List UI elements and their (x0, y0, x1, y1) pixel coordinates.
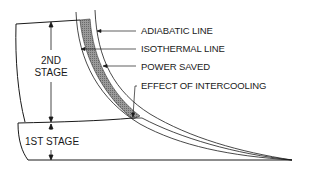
adiabatic-line-label: ADIABATIC LINE (141, 26, 213, 36)
first-stage-curve (133, 118, 292, 160)
first-stage-label: 1ST STAGE (24, 136, 80, 148)
intercooling-label: EFFECT OF INTERCOOLING (141, 81, 266, 91)
second-stage-label-line2: STAGE (34, 67, 68, 79)
second-stage-label: 2ND STAGE (34, 55, 68, 79)
second-stage-label-line1: 2ND (34, 55, 68, 67)
isothermal-line-label: ISOTHERMAL LINE (141, 44, 225, 54)
power-saved-label: POWER SAVED (141, 62, 210, 72)
